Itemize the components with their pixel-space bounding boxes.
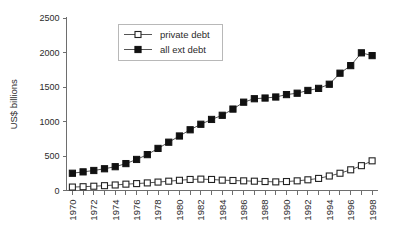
chart-container: 05001000150020002500US$ billions19701972… [0, 0, 404, 236]
data-point-marker [187, 176, 193, 182]
x-axis-tick-label: 1972 [88, 200, 99, 221]
data-point-marker [69, 184, 75, 190]
data-point-marker [337, 170, 343, 176]
data-point-marker [273, 94, 279, 100]
series-all-ext-debt [69, 50, 375, 177]
data-point-marker [69, 170, 75, 176]
data-point-marker [230, 106, 236, 112]
data-point-marker [198, 176, 204, 182]
data-point-marker [166, 178, 172, 184]
legend-label: all ext debt [160, 44, 206, 55]
x-axis-tick-label: 1978 [152, 200, 163, 221]
data-point-marker [144, 180, 150, 186]
data-point-marker [294, 90, 300, 96]
data-point-marker [134, 156, 140, 162]
data-point-marker [208, 116, 214, 122]
series-private-debt [69, 158, 375, 190]
data-point-marker [144, 152, 150, 158]
data-point-marker [91, 183, 97, 189]
data-point-marker [230, 178, 236, 184]
data-point-marker [102, 183, 108, 189]
data-point-marker [80, 169, 86, 175]
data-point-marker [358, 50, 364, 56]
data-point-marker [294, 178, 300, 184]
data-point-marker [166, 139, 172, 145]
x-axis-tick-label: 1994 [324, 200, 335, 221]
data-point-marker [155, 179, 161, 185]
x-axis-tick-label: 1992 [302, 200, 313, 221]
x-axis-tick-label: 1970 [67, 200, 78, 221]
x-axis-tick-label: 1976 [131, 200, 142, 221]
data-point-marker [123, 181, 129, 187]
x-axis-tick-label: 1988 [259, 200, 270, 221]
data-point-marker [134, 181, 140, 187]
x-axis-tick-label: 1984 [217, 200, 228, 221]
x-axis-tick-label: 1982 [195, 200, 206, 221]
data-point-marker [241, 178, 247, 184]
data-point-marker [348, 63, 354, 69]
legend-label: private debt [160, 29, 210, 40]
data-point-marker [101, 166, 107, 172]
data-point-marker [369, 53, 375, 59]
data-point-marker [176, 133, 182, 139]
data-point-marker [219, 177, 225, 183]
x-axis-tick-label: 1974 [110, 200, 121, 221]
y-axis-tick-label: 500 [44, 151, 59, 161]
data-point-marker [91, 167, 97, 173]
data-point-marker [219, 112, 225, 118]
data-point-marker [241, 99, 247, 105]
y-axis-title: US$ billions [8, 79, 19, 129]
data-point-marker [176, 177, 182, 183]
data-point-marker [273, 179, 279, 185]
data-point-marker [112, 164, 118, 170]
chart-legend: private debtall ext debt [118, 24, 222, 60]
data-point-marker [305, 177, 311, 183]
data-point-marker [155, 145, 161, 151]
y-axis-tick-label: 2000 [39, 48, 59, 58]
data-point-marker [187, 127, 193, 133]
data-point-marker [198, 121, 204, 127]
y-axis-tick-label: 2500 [39, 13, 59, 23]
data-point-marker [283, 179, 289, 185]
data-point-marker [348, 167, 354, 173]
data-point-marker [262, 95, 268, 101]
data-point-marker [358, 163, 364, 169]
legend-marker [135, 46, 141, 52]
data-point-marker [337, 70, 343, 76]
y-axis-tick-label: 1000 [39, 117, 59, 127]
y-axis-tick-label: 0 [54, 186, 59, 196]
data-point-marker [315, 85, 321, 91]
line-chart: 05001000150020002500US$ billions19701972… [0, 0, 404, 236]
x-axis-tick-label: 1998 [367, 200, 378, 221]
data-point-marker [326, 81, 332, 87]
data-point-marker [251, 96, 257, 102]
data-point-marker [80, 184, 86, 190]
x-axis-tick-label: 1996 [345, 200, 356, 221]
data-point-marker [316, 175, 322, 181]
data-point-marker [283, 91, 289, 97]
x-axis-tick-label: 1986 [238, 200, 249, 221]
y-axis-tick-label: 1500 [39, 82, 59, 92]
data-point-marker [123, 160, 129, 166]
data-point-marker [209, 176, 215, 182]
data-point-marker [262, 179, 268, 185]
data-point-marker [251, 178, 257, 184]
data-point-marker [305, 87, 311, 93]
data-point-marker [112, 182, 118, 188]
data-point-marker [326, 173, 332, 179]
x-axis-tick-label: 1990 [281, 200, 292, 221]
data-point-marker [369, 158, 375, 164]
x-axis-tick-label: 1980 [174, 200, 185, 221]
legend-marker [135, 32, 141, 38]
